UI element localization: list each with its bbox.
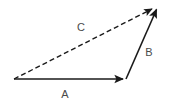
vector-c-label: C	[77, 22, 85, 33]
vector-diagram: A B C	[0, 0, 172, 104]
vector-a-label: A	[61, 89, 68, 100]
vector-b-label: B	[145, 47, 152, 58]
